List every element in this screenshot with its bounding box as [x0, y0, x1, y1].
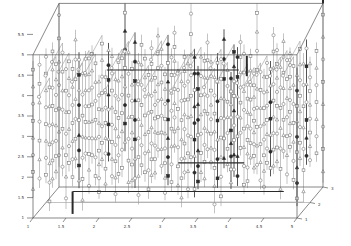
- triangle-marker: [81, 135, 84, 138]
- square-marker: [160, 81, 163, 84]
- triangle-marker: [189, 114, 192, 117]
- triangle-marker: [199, 171, 202, 174]
- square-marker: [246, 180, 249, 183]
- triangle-marker: [38, 158, 41, 161]
- x-tick-label: 2: [93, 224, 96, 229]
- square-marker: [160, 131, 163, 134]
- circle-marker: [130, 99, 133, 102]
- circle-marker: [298, 79, 301, 82]
- circle-marker: [236, 174, 239, 177]
- square-marker: [243, 127, 246, 130]
- square-marker: [289, 75, 292, 78]
- x-tick-label: 2.5: [124, 224, 131, 229]
- triangle-marker: [213, 76, 216, 79]
- triangle-marker: [262, 169, 265, 172]
- triangle-marker: [38, 101, 41, 104]
- circle-marker: [209, 118, 212, 121]
- triangle-marker: [252, 95, 255, 98]
- triangle-marker: [114, 127, 117, 130]
- square-marker: [164, 73, 167, 76]
- x-tick: [195, 218, 198, 222]
- square-marker: [45, 173, 48, 176]
- triangle-marker: [77, 179, 80, 182]
- circle-marker: [77, 149, 80, 152]
- circle-marker: [166, 43, 169, 46]
- circle-marker: [226, 131, 229, 134]
- circle-marker: [196, 164, 199, 167]
- square-marker: [226, 100, 229, 103]
- circle-marker: [64, 132, 67, 135]
- circle-marker: [61, 108, 64, 111]
- circle-marker: [262, 138, 265, 141]
- triangle-marker: [170, 145, 173, 148]
- circle-marker: [87, 89, 90, 92]
- triangle-marker: [67, 127, 70, 130]
- triangle-marker: [186, 116, 189, 119]
- circle-marker: [186, 188, 189, 191]
- y-tick-label: 5: [21, 52, 24, 57]
- triangle-marker: [64, 175, 67, 178]
- triangle-marker: [84, 89, 87, 92]
- circle-marker: [269, 150, 272, 153]
- circle-marker: [120, 148, 123, 151]
- square-marker: [269, 68, 272, 71]
- square-marker: [114, 111, 117, 114]
- x-tick: [96, 218, 99, 222]
- circle-marker: [84, 152, 87, 155]
- square-marker: [150, 110, 153, 113]
- triangle-marker: [302, 62, 305, 65]
- square-marker: [65, 89, 68, 92]
- triangle-marker: [166, 80, 169, 83]
- square-marker: [177, 165, 180, 168]
- square-marker: [88, 153, 91, 156]
- circle-marker: [64, 197, 67, 200]
- square-marker: [187, 98, 190, 101]
- square-marker: [272, 50, 275, 53]
- triangle-marker: [44, 89, 47, 92]
- circle-marker: [114, 94, 117, 97]
- triangle-marker: [203, 76, 206, 79]
- circle-marker: [281, 74, 284, 77]
- y-tick-label: 3: [21, 134, 24, 139]
- circle-marker: [216, 157, 219, 160]
- square-marker: [259, 89, 262, 92]
- circle-marker: [239, 131, 242, 134]
- square-marker: [259, 143, 262, 146]
- circle-marker: [173, 31, 176, 34]
- x-tick: [162, 218, 165, 222]
- square-marker: [253, 155, 256, 158]
- circle-marker: [236, 55, 239, 58]
- square-marker: [239, 56, 242, 59]
- circle-marker: [272, 132, 275, 135]
- circle-marker: [229, 116, 232, 119]
- triangle-marker: [114, 176, 117, 179]
- circle-marker: [81, 93, 84, 96]
- circle-marker: [308, 76, 311, 79]
- circle-marker: [110, 175, 113, 178]
- triangle-marker: [140, 123, 143, 126]
- triangle-marker: [232, 109, 235, 112]
- square-marker: [144, 114, 147, 117]
- z-tick-label: 1: [305, 217, 308, 222]
- triangle-marker: [84, 136, 87, 139]
- circle-marker: [77, 58, 80, 61]
- circle-marker: [269, 101, 272, 104]
- circle-marker: [140, 144, 143, 147]
- circle-marker: [248, 80, 251, 83]
- square-marker: [48, 86, 51, 89]
- square-marker: [183, 142, 186, 145]
- depth-leader: [72, 63, 83, 82]
- square-marker: [144, 171, 147, 174]
- circle-marker: [114, 192, 117, 195]
- circle-marker: [169, 89, 172, 92]
- triangle-marker: [255, 30, 258, 33]
- triangle-marker: [298, 110, 301, 113]
- square-marker: [48, 143, 51, 146]
- triangle-marker: [163, 176, 166, 179]
- circle-marker: [186, 80, 189, 83]
- square-marker: [289, 145, 292, 148]
- circle-marker: [156, 148, 159, 151]
- z-tick: [323, 187, 328, 188]
- circle-marker: [196, 72, 199, 75]
- circle-marker: [268, 74, 271, 77]
